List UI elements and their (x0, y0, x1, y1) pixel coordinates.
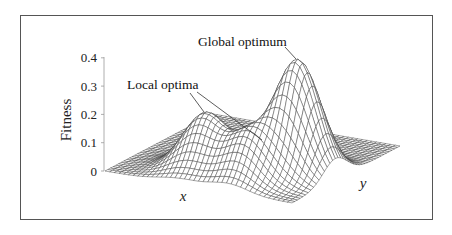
annotation-global-optimum: Global optimum (198, 34, 287, 49)
z-tick-label: 0 (91, 164, 98, 179)
y-axis-label: y (358, 175, 367, 191)
z-axis: 00.10.20.30.4 (81, 50, 104, 178)
z-tick-label: 0.2 (81, 107, 97, 122)
x-axis-label: x (179, 188, 187, 204)
z-tick-label: 0.3 (81, 79, 97, 94)
z-axis-title: Fitness (58, 99, 74, 142)
annotation-local-optima: Local optima (127, 77, 199, 92)
surface-plot: 00.10.20.30.4 Fitness x y Global optimum… (0, 0, 452, 235)
z-tick-label: 0.1 (81, 135, 97, 150)
z-tick-label: 0.4 (81, 50, 98, 65)
leader-line-global (285, 47, 296, 59)
